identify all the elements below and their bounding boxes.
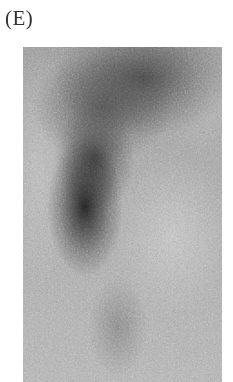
scan-grain-texture (23, 47, 222, 382)
scan-image (23, 47, 222, 382)
panel-label: (E) (5, 6, 33, 31)
